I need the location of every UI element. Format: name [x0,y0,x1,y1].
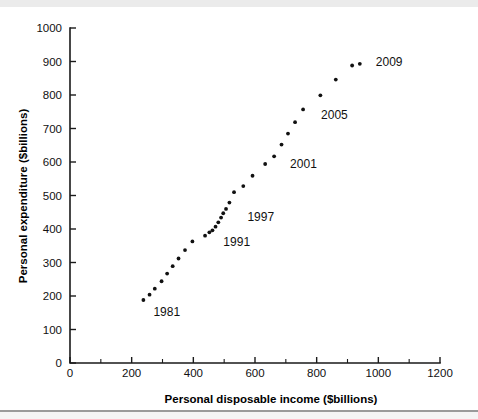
bottom-decorative-band [0,412,478,419]
y-tick-label: 900 [43,56,62,68]
x-tick-label: 400 [184,367,203,379]
y-tick-label: 300 [43,257,62,269]
annotation-group: 198119911997200120052009 [153,55,402,319]
data-point [214,225,218,229]
data-point [334,78,338,82]
y-tick-label: 600 [43,156,62,168]
data-point [177,257,181,261]
data-point [228,201,232,205]
data-point [148,293,152,297]
x-tick-label: 600 [245,367,264,379]
data-point [221,211,225,215]
data-point [165,272,169,276]
data-point [286,132,290,136]
x-axis-tick-labels: 020040060080010001200 [67,367,453,379]
data-point [280,143,284,147]
year-annotation: 2009 [376,55,403,69]
data-point [141,298,145,302]
year-annotation: 2001 [290,157,317,171]
plot-axes [70,28,440,363]
year-annotation: 1991 [223,235,250,249]
x-tick-label: 1200 [427,367,453,379]
data-point [153,287,157,291]
y-axis-title: Personal expenditure ($billions) [17,109,29,284]
year-annotation: 1997 [247,210,274,224]
y-axis-ticks [70,28,76,363]
data-point [160,279,164,283]
y-tick-label: 700 [43,123,62,135]
y-tick-label: 100 [43,324,62,336]
axis-lines [70,28,440,363]
data-point [232,190,236,194]
data-point [183,248,187,252]
y-tick-label: 1000 [36,22,62,34]
y-tick-label: 0 [56,357,62,369]
year-annotation: 2005 [321,108,348,122]
y-tick-label: 400 [43,223,62,235]
data-point [211,228,215,232]
scatter-plot: 020040060080010001200 010020030040050060… [0,0,478,412]
data-point [350,64,354,68]
x-tick-label: 200 [122,367,141,379]
x-tick-label: 0 [67,367,73,379]
data-point [216,220,220,224]
y-tick-label: 200 [43,290,62,302]
x-axis-ticks [70,357,440,363]
data-point [263,162,267,166]
year-annotation: 1981 [153,305,180,319]
x-tick-label: 1000 [366,367,392,379]
data-point [358,62,362,66]
data-point [171,264,175,268]
y-axis-tick-labels: 01002003004005006007008009001000 [36,22,62,369]
data-point [191,239,195,243]
data-point [203,234,207,238]
data-point [318,93,322,97]
data-point [293,120,297,124]
data-point-group [141,62,361,302]
x-tick-label: 800 [307,367,326,379]
data-point [272,154,276,158]
x-axis-title: Personal disposable income ($billions) [165,393,378,405]
data-point [224,207,228,211]
data-point [241,184,245,188]
data-point [251,174,255,178]
y-tick-label: 800 [43,89,62,101]
chart-figure: 020040060080010001200 010020030040050060… [0,0,478,419]
data-point [301,108,305,112]
y-tick-label: 500 [43,190,62,202]
data-point [219,216,223,220]
